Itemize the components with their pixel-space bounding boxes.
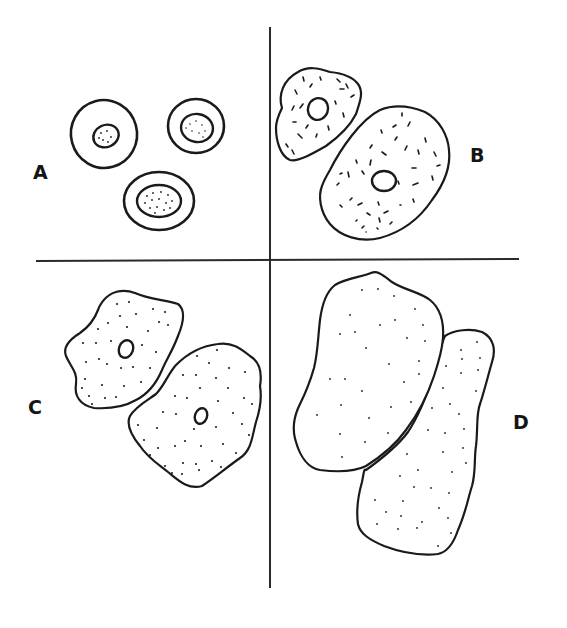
panel-d-cells [294, 272, 494, 554]
nucleus [372, 171, 396, 191]
cell-diagram [0, 0, 567, 628]
horizontal-divider [36, 259, 519, 261]
panel-b-cells [276, 68, 449, 239]
panel-label-a: A [33, 163, 48, 182]
panel-a-cells [63, 93, 224, 230]
cell-a1 [63, 93, 144, 176]
panel-c-cells [65, 291, 261, 487]
panel-label-c: C [28, 398, 42, 417]
figure-canvas: A B C D [0, 0, 567, 628]
panel-label-d: D [513, 413, 529, 432]
cell-a2 [168, 99, 224, 153]
cell-a3 [124, 172, 194, 230]
nucleus [137, 185, 181, 217]
panel-label-b: B [470, 146, 484, 165]
